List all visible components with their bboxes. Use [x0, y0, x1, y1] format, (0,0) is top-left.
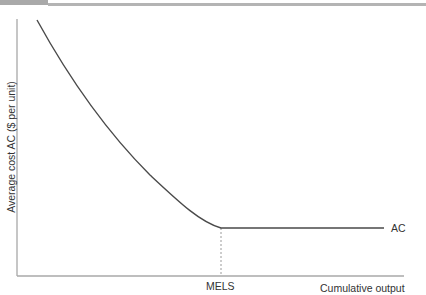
ac-curve	[37, 20, 384, 228]
mels-tick-label: MELS	[206, 280, 235, 292]
ac-chart	[0, 0, 426, 295]
x-axis-label: Cumulative output	[320, 282, 405, 294]
ac-series-label: AC	[391, 222, 406, 234]
y-axis-label: Average cost AC ($ per unit)	[5, 57, 19, 237]
